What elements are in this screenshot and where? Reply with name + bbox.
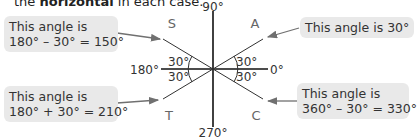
callout-150: This angle is 180° – 30° = 150° [4,16,118,52]
quadrant-label-a: A [251,16,260,31]
callout-30-line1: This angle is 30° [305,20,409,35]
axis-label-90: 90° [202,0,223,14]
arrow-bottom-left [117,100,158,103]
callout-30: This angle is 30° [300,17,414,38]
quadrant-label-t: T [164,108,173,123]
callout-330-line1: This angle is [302,86,404,101]
axis-label-270: 270° [199,126,228,138]
axis-label-180: 180° [130,63,159,77]
angle-mark-bottom-right: 30° [236,70,257,84]
angle-mark-bottom-left: 30° [168,70,189,84]
callout-210: This angle is 180° + 30° = 210° [4,86,118,122]
quadrant-label-c: C [251,108,260,123]
quadrant-label-s: S [168,16,176,31]
arrow-top-right [268,28,299,37]
callout-150-line2: 180° – 30° = 150° [9,34,113,49]
angle-mark-top-left: 30° [168,55,189,69]
callout-210-line1: This angle is [9,89,113,104]
axis-label-0: 0° [270,63,284,77]
callout-330-line2: 360° – 30° = 330° [302,101,404,116]
callout-210-line2: 180° + 30° = 210° [9,104,113,119]
angle-mark-top-right: 30° [236,55,257,69]
callout-150-line1: This angle is [9,19,113,34]
callout-330: This angle is 360° – 30° = 330° [297,83,409,119]
